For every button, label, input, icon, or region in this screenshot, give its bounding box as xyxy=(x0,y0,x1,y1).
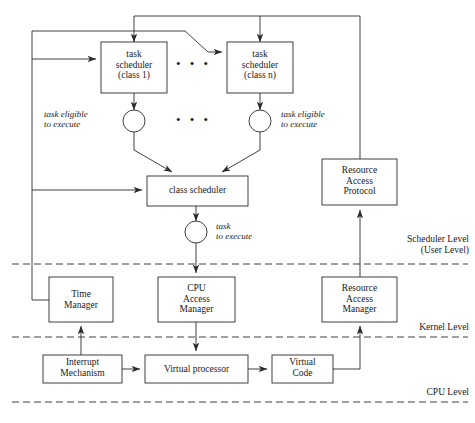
diagram-connectors xyxy=(0,0,475,423)
box-virtual-processor xyxy=(145,355,248,383)
box-time-manager xyxy=(49,277,113,322)
left-bus-upper-rail xyxy=(32,31,222,52)
feedback-top-rail xyxy=(134,16,360,159)
box-cpu-access-manager xyxy=(158,277,235,322)
box-resource-access-manager xyxy=(322,277,397,322)
circle-task-eligible-class-1 xyxy=(123,110,145,132)
arrow-circlen-to-class-scheduler xyxy=(222,132,260,172)
box-task-scheduler-class-1 xyxy=(101,42,167,93)
ellipsis-schedulers-icon: • • • xyxy=(176,56,211,72)
circle-task-to-execute xyxy=(185,221,207,243)
box-task-scheduler-class-n xyxy=(227,42,293,93)
ellipsis-circles-icon: • • • xyxy=(176,112,211,128)
arrow-circle1-to-class-scheduler xyxy=(134,132,172,172)
box-virtual-code xyxy=(272,355,333,383)
box-class-scheduler xyxy=(147,176,248,206)
box-interrupt-mechanism xyxy=(43,355,122,383)
box-resource-access-protocol xyxy=(322,159,397,205)
arrow-virtual-code-to-resource-access-manager xyxy=(333,326,360,369)
scheduling-architecture-diagram: task scheduler (class 1) task scheduler … xyxy=(0,0,475,423)
circle-task-eligible-class-n xyxy=(249,110,271,132)
